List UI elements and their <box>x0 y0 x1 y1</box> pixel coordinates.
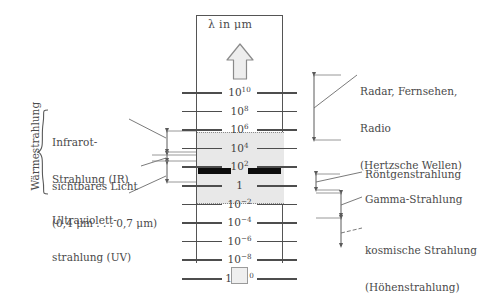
label-cosmic-line-2: (Höhenstrahlung) <box>365 281 477 293</box>
label-ultraviolet-line-1: Ultraviolett- <box>52 214 131 226</box>
thermal-radiation-group-label: Wärmestrahlung <box>29 92 41 200</box>
label-cosmic-line-1: kosmische Strahlung <box>365 244 477 256</box>
label-ultraviolet-radiation: Ultraviolett- strahlung (UV) <box>52 189 131 288</box>
leader-cosmic <box>341 228 362 233</box>
electromagnetic-spectrum-diagram: λ in μm 1010108106104102110−210−410−610−… <box>0 0 487 302</box>
tick-row: 1010 <box>182 92 297 93</box>
tick-label: 10−8 <box>182 253 297 265</box>
leader-xray <box>316 172 362 182</box>
label-ultraviolet-line-2: strahlung (UV) <box>52 251 131 263</box>
tick-row: 102 <box>182 166 297 167</box>
label-radio-line-1: Radar, Fernsehen, <box>360 85 462 97</box>
label-infrared-line-1: Infrarot- <box>52 136 129 148</box>
label-cosmic-radiation: kosmische Strahlung (Höhenstrahlung) <box>365 219 477 302</box>
label-radio-line-2: Radio <box>360 122 462 134</box>
tick-label: 10−4 <box>182 216 297 228</box>
leader-radio <box>314 75 357 108</box>
tick-label: 108 <box>182 105 297 117</box>
tick-row: 10−8 <box>182 259 297 260</box>
tick-row: 108 <box>182 111 297 112</box>
tick-row: 10−4 <box>182 222 297 223</box>
wavelength-axis-caption: λ in μm <box>208 19 252 32</box>
label-xray-radiation: Röntgenstrahlung <box>365 168 461 180</box>
tick-label: 104 <box>182 142 297 154</box>
tick-row: 1 <box>182 185 297 186</box>
tick-label: 10−6 <box>182 235 297 247</box>
label-gamma-radiation: Gamma-Strahlung <box>365 193 462 205</box>
wavelength-arrow <box>197 34 284 94</box>
tick-label: 1010 <box>182 86 297 98</box>
tick-label: 106 <box>182 123 297 135</box>
tick-label: 102 <box>182 160 297 172</box>
tick-row: 104 <box>182 148 297 149</box>
tick-row: 10−2 <box>182 204 297 205</box>
tick-row: 10−6 <box>182 241 297 242</box>
tick-row: 106 <box>182 129 297 130</box>
footer-square-marker <box>231 267 248 284</box>
leader-infrared <box>129 119 166 138</box>
leader-gamma <box>341 197 362 205</box>
tick-label: 10−2 <box>182 198 297 210</box>
tick-label: 1 <box>182 179 297 191</box>
